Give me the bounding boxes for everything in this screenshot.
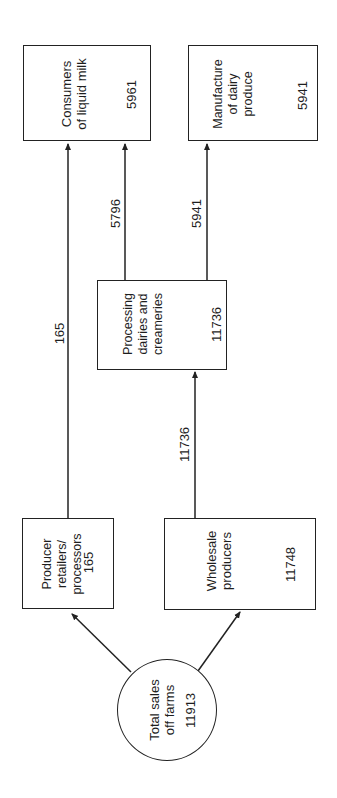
- manufacture-dairy-line3: produce: [241, 49, 256, 139]
- consumers-liquid-milk-line2: of liquid milk: [74, 49, 89, 139]
- node-processing-dairies-value: 11736: [209, 300, 224, 350]
- edge-total-to-producer: [72, 614, 131, 672]
- consumers-liquid-milk-line1: Consumers: [59, 49, 74, 139]
- processing-dairies-line2: dairies and: [136, 282, 151, 367]
- node-wholesale-producers-label: Wholesale producers: [204, 521, 236, 601]
- producer-retailers-line1: Producer: [40, 518, 55, 610]
- total-sales-line2: off farms: [162, 650, 177, 770]
- processing-dairies-line3: creameries: [151, 282, 166, 367]
- edge-total-to-wholesale: [198, 612, 240, 671]
- edge-label-processing-to-consumers: 5796: [108, 194, 123, 234]
- node-consumers-liquid-milk-value: 5961: [124, 75, 139, 115]
- node-consumers-liquid-milk-label: Consumers of liquid milk: [59, 49, 91, 139]
- manufacture-dairy-line2: of dairy: [226, 49, 241, 139]
- node-total-sales-label: Total sales off farms: [147, 650, 187, 770]
- wholesale-producers-line2: producers: [219, 521, 234, 601]
- total-sales-line1: Total sales: [147, 650, 162, 770]
- edge-label-wholesale-to-processing: 11736: [177, 420, 192, 470]
- node-wholesale-producers-value: 11748: [283, 540, 298, 590]
- edge-label-producer-to-consumers: 165: [52, 314, 67, 354]
- processing-dairies-line1: Processing: [121, 282, 136, 367]
- node-manufacture-dairy-value: 5941: [295, 76, 310, 116]
- node-manufacture-dairy-label: Manufacture of dairy produce: [211, 49, 259, 139]
- node-processing-dairies-label: Processing dairies and creameries: [121, 282, 169, 367]
- edge-label-processing-to-manufacture: 5941: [189, 194, 204, 234]
- manufacture-dairy-line1: Manufacture: [211, 49, 226, 139]
- wholesale-producers-line1: Wholesale: [204, 521, 219, 601]
- producer-retailers-line2: retailers/: [55, 518, 70, 610]
- node-total-sales-value: 11913: [183, 681, 198, 741]
- node-producer-retailers-value: 165: [81, 543, 96, 583]
